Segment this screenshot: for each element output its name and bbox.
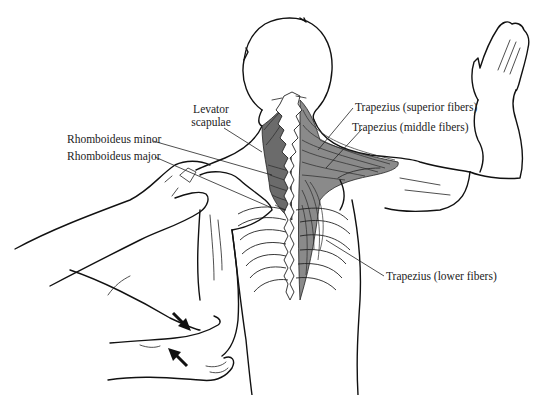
arrow-down-right-icon bbox=[173, 313, 191, 331]
raised-arm bbox=[385, 22, 529, 211]
anatomy-figure: Levator scapulae Rhomboideus minor Rhomb… bbox=[0, 0, 533, 395]
label-trapezius-superior: Trapezius (superior fibers) bbox=[355, 101, 477, 114]
label-levator-line1: Levator bbox=[176, 103, 246, 116]
therapist-upper-hand bbox=[15, 161, 210, 286]
patient-arm bbox=[198, 210, 239, 356]
label-trapezius-lower: Trapezius (lower fibers) bbox=[386, 270, 497, 283]
therapist-lower-hand bbox=[70, 270, 234, 381]
ribcage bbox=[238, 207, 350, 292]
anatomy-illustration bbox=[0, 0, 533, 395]
label-rhomboideus-major: Rhomboideus major bbox=[67, 150, 161, 163]
label-levator-scapulae: Levator scapulae bbox=[176, 103, 246, 129]
label-rhomboideus-minor: Rhomboideus minor bbox=[67, 133, 161, 146]
label-trapezius-middle: Trapezius (middle fibers) bbox=[352, 121, 468, 134]
label-levator-line2: scapulae bbox=[176, 116, 246, 129]
arrow-up-left-icon bbox=[168, 348, 187, 366]
